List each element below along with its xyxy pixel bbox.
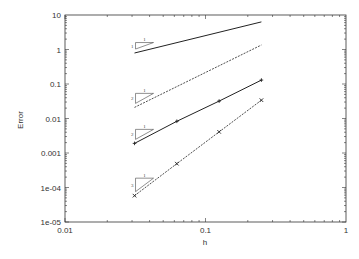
convergence-chart: 0.010.111010.10.010.0011e-041e-05 111212… [0,0,359,259]
data-series [133,22,263,198]
triangle-rise-label: 2 [131,96,134,101]
slope-triangle [136,178,154,192]
series-line-slope-2-solid [135,80,262,143]
plus-marker [260,78,264,82]
triangle-rise-label: 3 [131,183,134,188]
y-tick-label: 1 [57,46,62,55]
cross-marker [217,130,221,134]
slope-triangle [136,43,154,50]
series-line-slope-2-dashed [135,45,262,107]
triangle-rise-label: 2 [131,132,134,137]
axis-ticks [65,15,346,222]
x-tick-label: 0.1 [200,226,212,235]
plus-marker [175,119,179,123]
plot-frame [65,15,346,222]
x-tick-label: 1 [344,226,349,235]
y-axis-label: Error [16,111,25,129]
plus-marker [217,99,221,103]
triangle-run-label: 1 [143,173,146,178]
triangle-run-label: 1 [143,124,146,129]
cross-marker [260,98,264,102]
cross-marker [175,162,179,166]
x-axis-label: h [203,238,207,247]
triangle-rise-label: 1 [131,44,134,49]
triangle-run-label: 1 [143,37,146,42]
series-line-slope-3-dashed [135,100,262,196]
y-tick-label: 10 [52,11,61,20]
cross-marker [133,194,137,198]
slope-triangle [136,93,154,103]
plus-marker [133,142,137,146]
series-line-slope-1 [135,22,262,53]
slope-triangles: 11121213 [131,37,154,192]
y-tick-label: 0.01 [45,115,61,124]
x-tick-label: 0.01 [57,226,73,235]
plot-border [65,15,346,222]
triangle-run-label: 1 [143,88,146,93]
y-tick-label: 1e-04 [41,184,62,193]
y-tick-label: 0.001 [41,149,62,158]
tick-labels: 0.010.111010.10.010.0011e-041e-05 [41,11,349,235]
y-tick-label: 0.1 [50,80,62,89]
y-tick-label: 1e-05 [41,218,62,227]
